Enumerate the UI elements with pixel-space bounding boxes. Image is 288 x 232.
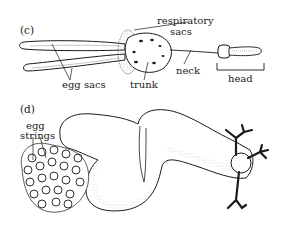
label-strings: strings	[20, 131, 55, 141]
label-egg-sacs: egg sacs	[62, 80, 106, 90]
head-body	[218, 45, 261, 58]
egg-sac-upper	[20, 41, 126, 51]
diagram-canvas	[0, 0, 288, 232]
neck-line	[170, 50, 218, 53]
panel-label-d: (d)	[20, 104, 35, 114]
worm-head-branches	[226, 125, 268, 208]
label-head: head	[228, 74, 253, 84]
leader-neck	[184, 50, 191, 64]
panel-label-c: (c)	[20, 25, 34, 35]
label-respiratory: respiratory	[157, 16, 214, 26]
label-sacs: sacs	[170, 27, 192, 37]
egg-strings-mass	[21, 143, 88, 212]
label-trunk: trunk	[130, 80, 158, 90]
head-bracket	[217, 63, 264, 70]
egg-sac-lower	[24, 54, 126, 71]
worm-body	[60, 110, 253, 211]
trunk-body	[125, 33, 171, 72]
label-neck: neck	[176, 66, 200, 76]
